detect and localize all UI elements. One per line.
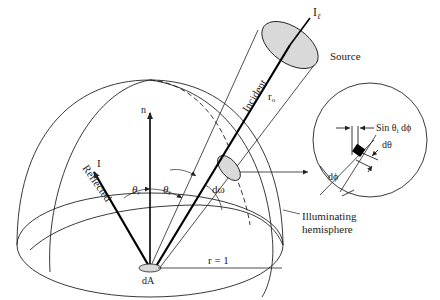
area-label: dA xyxy=(142,275,155,286)
incident-label: Incident xyxy=(240,77,269,114)
inset-dphi-label: dϕ xyxy=(328,171,338,182)
normal-label: n xyxy=(141,104,146,115)
area-patch xyxy=(139,264,161,272)
hemisphere-label-1: Illuminating xyxy=(302,210,357,222)
theta-r-label: θr xyxy=(132,183,140,197)
hemisphere-label-2: hemisphere xyxy=(302,223,353,235)
distance-label: ro xyxy=(268,90,276,104)
solid-angle-label: dω xyxy=(212,183,225,195)
source-intensity-label: Iℓ xyxy=(313,5,321,21)
source-label: Source xyxy=(330,50,361,62)
radiometry-diagram: Iℓ Source Incident ro n I Reflected θr θ… xyxy=(0,0,440,300)
reflected-intensity-label: I xyxy=(97,157,101,169)
inset-dtheta-label: dθ xyxy=(382,139,392,150)
incident-beam xyxy=(150,12,327,270)
inset-sin-label: Sin θi dϕ xyxy=(376,122,411,135)
solid-angle-disk xyxy=(213,151,245,184)
theta-i-label: θi xyxy=(163,183,170,197)
radius-label: r = 1 xyxy=(208,254,229,266)
